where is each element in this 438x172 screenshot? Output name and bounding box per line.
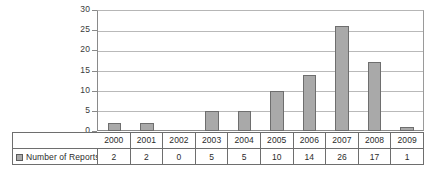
bar-2001: [140, 123, 154, 131]
y-tick-label-10: 10: [62, 86, 90, 95]
value-cell: 5: [196, 149, 229, 165]
y-tick-label-30: 30: [62, 5, 90, 14]
y-tick-label-20: 20: [62, 45, 90, 54]
value-cell: 1: [391, 149, 423, 165]
series-swatch-icon: [16, 154, 23, 161]
value-cell: 2: [131, 149, 164, 165]
bar-2000: [108, 123, 122, 131]
bar-2006: [303, 75, 317, 132]
year-cell: 2008: [359, 133, 392, 148]
legend-label: Number of Reports: [26, 153, 98, 162]
bar-chart: 30 25 20 15 10 5 0 2000: [0, 0, 438, 172]
bar-2008: [368, 62, 382, 131]
table-row-values: Number of Reports 2 2 0 5 5 10 14 26 17 …: [13, 148, 423, 165]
bar-2007: [335, 26, 349, 131]
year-cell: 2009: [391, 133, 423, 148]
bars-layer: [98, 10, 423, 131]
bar-2009: [400, 127, 414, 131]
bar-2004: [238, 111, 252, 131]
year-cell: 2000: [98, 133, 131, 148]
legend-entry: Number of Reports: [13, 149, 98, 165]
bar-2003: [205, 111, 219, 131]
value-cell: 17: [359, 149, 392, 165]
year-cell: 2005: [261, 133, 294, 148]
table-row-years: 2000 2001 2002 2003 2004 2005 2006 2007 …: [13, 133, 423, 148]
y-tick-label-5: 5: [62, 106, 90, 115]
year-cell: 2002: [163, 133, 196, 148]
year-cell: 2003: [196, 133, 229, 148]
year-cell: 2006: [294, 133, 327, 148]
value-cell: 5: [228, 149, 261, 165]
value-cell: 2: [98, 149, 131, 165]
value-cell: 10: [261, 149, 294, 165]
y-tick-label-25: 25: [62, 25, 90, 34]
year-cell: 2007: [326, 133, 359, 148]
value-cell: 26: [326, 149, 359, 165]
data-table: 2000 2001 2002 2003 2004 2005 2006 2007 …: [12, 132, 424, 165]
legend-spacer-cell: [13, 133, 98, 148]
year-cell: 2001: [131, 133, 164, 148]
year-cell: 2004: [228, 133, 261, 148]
value-cell: 0: [163, 149, 196, 165]
value-cell: 14: [294, 149, 327, 165]
bar-2005: [270, 91, 284, 131]
y-tick-label-15: 15: [62, 66, 90, 75]
